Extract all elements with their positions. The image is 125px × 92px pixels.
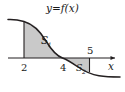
function-graph-figure: y=f(x) S 1 S 2 2 4 5 x <box>0 0 125 92</box>
region-label-s1: S 1 <box>41 34 52 48</box>
tick-label-2: 2 <box>21 62 27 73</box>
x-axis-label: x <box>108 60 114 72</box>
tick-label-5: 5 <box>87 45 93 56</box>
region-label-s2-subscript: 2 <box>81 68 86 75</box>
region-label-s1-subscript: 1 <box>48 41 52 48</box>
tick-label-4: 4 <box>60 62 66 73</box>
figure-canvas: y=f(x) S 1 S 2 2 4 5 x <box>0 0 125 92</box>
curve-label: y=f(x) <box>45 2 79 14</box>
